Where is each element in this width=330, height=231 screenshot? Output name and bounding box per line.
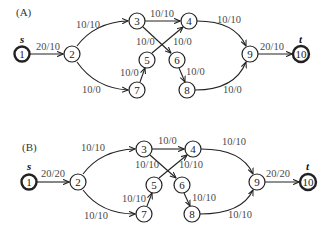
svg-text:9: 9	[254, 176, 260, 188]
node-7: 7	[129, 82, 145, 98]
edge-7-5	[140, 68, 145, 82]
node-6: 6	[169, 52, 185, 68]
node-10: 10	[293, 46, 309, 62]
node-3: 3	[136, 141, 152, 157]
edge-label-9-10: 20/10	[260, 41, 284, 52]
svg-text:1: 1	[19, 48, 25, 60]
node-4: 4	[181, 13, 197, 29]
edge-label-9-10: 20/20	[266, 168, 290, 179]
node-1: 1	[22, 175, 37, 190]
node-5: 5	[139, 52, 155, 68]
panel-a: (A) 20/10 10/10 10/0 10/10 10/0 10/0 10/…	[15, 6, 310, 98]
edge-6-8	[179, 68, 185, 82]
svg-text:3: 3	[141, 143, 147, 155]
edge-6-8	[184, 193, 190, 206]
node-2: 2	[70, 174, 86, 190]
node-10: 10	[300, 174, 316, 190]
edge-label-1-2: 20/20	[41, 168, 65, 179]
edge-label-6-8: 10/10	[192, 192, 216, 203]
svg-text:2: 2	[75, 176, 81, 188]
node-8: 8	[184, 206, 200, 222]
edge-label-8-9: 10/10	[228, 209, 252, 220]
panel-label-b: (B)	[22, 141, 37, 154]
svg-text:4: 4	[186, 15, 192, 27]
source-label-b: s	[26, 160, 31, 172]
edge-label-2-3: 10/10	[81, 142, 105, 153]
edge-label-3-6: 10/0	[136, 36, 155, 47]
edge-label-4-9: 10/10	[217, 14, 241, 25]
node-5: 5	[146, 177, 162, 193]
node-6: 6	[174, 177, 190, 193]
node-7: 7	[136, 206, 152, 222]
svg-text:9: 9	[247, 48, 253, 60]
edge-label-3-6: 10/10	[135, 159, 159, 170]
edge-label-5-4: 10/10	[179, 159, 203, 170]
node-9: 9	[249, 174, 265, 190]
svg-text:7: 7	[134, 84, 140, 96]
node-4: 4	[185, 141, 201, 157]
edge-label-5-4: 10/0	[173, 36, 192, 47]
svg-text:1: 1	[26, 176, 32, 188]
svg-text:10: 10	[296, 48, 308, 60]
node-1: 1	[15, 47, 30, 62]
svg-text:5: 5	[144, 54, 150, 66]
edge-label-7-5: 10/0	[120, 67, 139, 78]
edge-label-2-7: 10/10	[84, 210, 108, 221]
edge-7-5	[147, 193, 152, 206]
edge-label-2-7: 10/0	[82, 84, 101, 95]
edge-label-3-4: 10/10	[150, 8, 174, 19]
svg-text:2: 2	[69, 48, 75, 60]
svg-text:4: 4	[190, 143, 196, 155]
svg-text:8: 8	[189, 208, 195, 220]
edge-label-2-3: 10/10	[76, 19, 100, 30]
node-3: 3	[129, 13, 145, 29]
svg-text:8: 8	[184, 84, 190, 96]
svg-text:10: 10	[303, 176, 315, 188]
panel-b: (B) 20/20 10/10 10/10 10/0 10/10 10/10 1…	[22, 135, 317, 222]
panel-label-a: (A)	[16, 6, 32, 19]
edge-label-7-5: 10/10	[122, 193, 146, 204]
node-8: 8	[179, 82, 195, 98]
flow-network-figure: (A) 20/10 10/10 10/0 10/10 10/0 10/0 10/…	[0, 0, 330, 231]
edge-label-6-8: 10/0	[186, 66, 205, 77]
svg-text:3: 3	[134, 15, 140, 27]
source-label-a: s	[19, 33, 24, 45]
node-9: 9	[242, 46, 258, 62]
svg-text:7: 7	[141, 208, 147, 220]
edge-label-4-9: 10/10	[222, 136, 246, 147]
node-2: 2	[64, 46, 80, 62]
edge-label-8-9: 10/0	[223, 84, 242, 95]
edge-label-3-4: 10/0	[158, 135, 177, 146]
edge-4-9	[201, 149, 253, 174]
edge-label-1-2: 20/10	[36, 41, 60, 52]
svg-text:6: 6	[174, 54, 180, 66]
svg-text:5: 5	[151, 179, 157, 191]
sink-label-b: t	[306, 160, 310, 172]
svg-text:6: 6	[179, 179, 185, 191]
sink-label-a: t	[299, 33, 303, 45]
